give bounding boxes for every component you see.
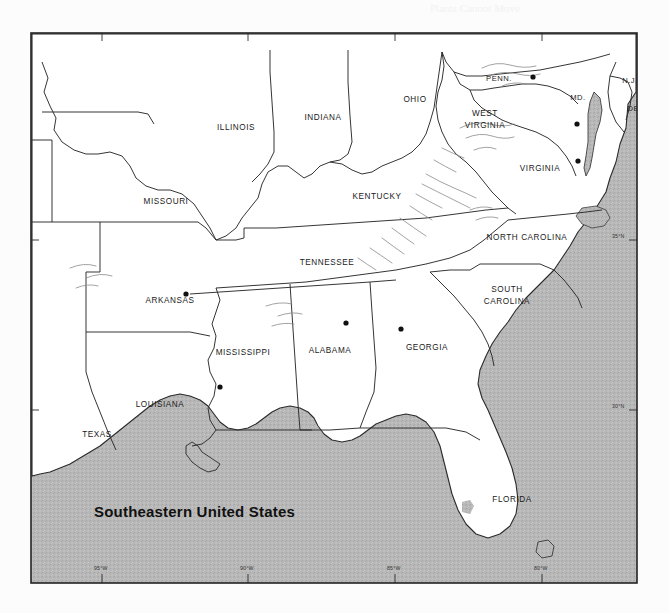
state-label-illinois: ILLINOIS: [217, 123, 255, 132]
city-dot-alabama[interactable]: [343, 320, 348, 325]
state-label-kentucky: KENTUCKY: [353, 192, 402, 201]
state-label-mississippi: MISSISSIPPI: [216, 348, 271, 357]
page-canvas: Plants Cannot Move Because They Cannot M…: [0, 0, 669, 613]
city-dot-mississippi[interactable]: [217, 384, 222, 389]
state-label-indiana: INDIANA: [304, 113, 341, 122]
lat-label-35n: 35°N: [612, 233, 624, 239]
state-label-florida: FLORIDA: [492, 495, 531, 504]
map-title: Southeastern United States: [94, 503, 295, 520]
state-label-north-carolina: NORTH CAROLINA: [487, 233, 568, 242]
city-dot-georgia[interactable]: [398, 326, 403, 331]
state-label-tennessee: TENNESSEE: [300, 258, 355, 267]
state-label-west-virginia-line1: WEST: [472, 109, 498, 118]
city-dot-maryland[interactable]: [574, 121, 579, 126]
lon-label-85w: 85°W: [387, 565, 401, 571]
state-label-georgia: GEORGIA: [406, 343, 448, 352]
city-dot-pennsylvania[interactable]: [530, 74, 535, 79]
state-label-new-jersey: N.J.: [622, 76, 638, 85]
state-label-south-carolina-line1: SOUTH: [491, 285, 522, 294]
state-label-maryland: MD.: [570, 93, 586, 102]
state-label-ohio: OHIO: [403, 95, 426, 104]
state-label-alabama: ALABAMA: [309, 346, 352, 355]
lon-label-90w: 90°W: [240, 565, 254, 571]
lat-label-30n: 30°N: [612, 403, 624, 409]
state-label-virginia: VIRGINIA: [520, 164, 560, 173]
state-label-south-carolina-line2: CAROLINA: [484, 297, 530, 306]
state-label-missouri: MISSOURI: [144, 197, 189, 206]
state-label-texas: TEXAS: [82, 430, 112, 439]
map-svg[interactable]: ILLINOIS INDIANA OHIO MISSOURI KENTUCKY …: [30, 32, 638, 584]
lon-label-95w: 95°W: [94, 565, 108, 571]
state-label-louisiana: LOUISIANA: [136, 400, 185, 409]
state-label-arkansas: ARKANSAS: [146, 296, 195, 305]
state-label-pennsylvania: PENN.: [486, 74, 512, 83]
city-dot-virginia[interactable]: [575, 158, 580, 163]
state-label-west-virginia-line2: VIRGINIA: [465, 121, 505, 130]
map-body: ILLINOIS INDIANA OHIO MISSOURI KENTUCKY …: [30, 32, 638, 584]
bleed-through-line-1: Plants Cannot Move: [430, 2, 520, 14]
lon-label-80w: 80°W: [534, 565, 548, 571]
map-figure[interactable]: ILLINOIS INDIANA OHIO MISSOURI KENTUCKY …: [30, 32, 638, 584]
